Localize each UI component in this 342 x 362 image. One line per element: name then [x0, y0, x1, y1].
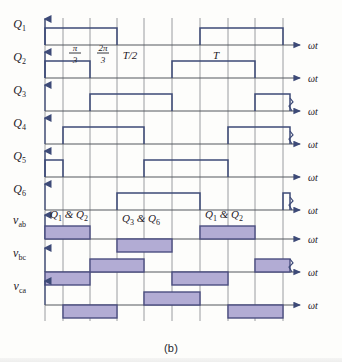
- row-label-Q5: Q5: [13, 149, 26, 165]
- time-marker-2: T/2: [123, 49, 138, 61]
- waveform-figure: ωtQ1ωtQ2ωtQ3ωtQ4ωtQ5ωtQ6ωtvabωtvbcωtvca …: [0, 0, 342, 362]
- row-label-vca: vca: [14, 279, 27, 295]
- block-vab-1: [117, 239, 172, 252]
- block-vbc-1: [90, 259, 144, 272]
- axis-label-Q2: ωt: [308, 73, 318, 84]
- figure-caption: (b): [0, 342, 342, 354]
- pulse-Q6-0: [117, 193, 200, 210]
- pulse-Q1-1: [200, 28, 283, 45]
- time-marker-label-3: T: [213, 49, 220, 61]
- pulse-Q2-0: [45, 61, 90, 78]
- block-vbc-3: [255, 259, 290, 272]
- ann-q3q6: Q3 & Q6: [122, 212, 160, 227]
- row-label-Q3: Q3: [13, 83, 26, 99]
- axis-label-vbc: ωt: [308, 267, 318, 278]
- row-label-vab: vab: [13, 213, 26, 229]
- row-Q4: ωtQ4: [13, 116, 318, 150]
- time-marker-label-2: T/2: [123, 49, 138, 61]
- row-label-Q6: Q6: [13, 182, 26, 198]
- row-label-Q4: Q4: [13, 116, 26, 132]
- page-edge-band: [0, 358, 342, 362]
- row-Q2: ωtQ2: [13, 50, 318, 84]
- row-Q6: ωtQ6: [13, 182, 318, 216]
- block-vca-0: [63, 305, 117, 318]
- axis-label-Q1: ωt: [308, 40, 318, 51]
- axis-label-vca: ωt: [308, 300, 318, 311]
- axis-label-Q5: ωt: [308, 172, 318, 183]
- pulse-Q2-1: [172, 61, 255, 78]
- pulse-Q3-0: [90, 94, 172, 111]
- row-Q5: ωtQ5: [13, 149, 318, 183]
- row-label-Q1: Q1: [13, 17, 26, 33]
- time-marker-numerator-1: 2π: [98, 43, 108, 53]
- axis-label-Q3: ωt: [308, 106, 318, 117]
- pulse-Q4-0: [63, 127, 144, 144]
- ann-q1q2-right: Q1 & Q2: [205, 208, 243, 223]
- waveform-rows: ωtQ1ωtQ2ωtQ3ωtQ4ωtQ5ωtQ6ωtvabωtvbcωtvca: [13, 17, 318, 318]
- annotations: Q1 & Q2Q3 & Q6Q1 & Q2: [50, 208, 243, 227]
- time-marker-numerator-0: π: [73, 43, 78, 53]
- row-Q3: ωtQ3: [13, 83, 318, 117]
- pulse-Q3-1: [255, 94, 290, 111]
- axis-label-Q4: ωt: [308, 139, 318, 150]
- time-marker-denominator-0: 3: [72, 55, 78, 65]
- time-marker-denominator-1: 3: [100, 55, 106, 65]
- time-marker-1: 2π3: [97, 43, 109, 65]
- pulse-Q6-1: [283, 193, 290, 210]
- block-vab-0: [45, 226, 90, 239]
- pulse-Q5-1: [144, 160, 228, 177]
- block-vca-2: [228, 305, 283, 318]
- row-label-Q2: Q2: [13, 50, 26, 66]
- axis-label-vab: ωt: [308, 234, 318, 245]
- row-Q1: ωtQ1: [13, 17, 318, 51]
- row-label-vbc: vbc: [13, 246, 26, 262]
- pulse-Q4-1: [228, 127, 290, 144]
- axis-label-Q6: ωt: [308, 205, 318, 216]
- block-vbc-0: [45, 272, 90, 285]
- timing-diagram-svg: ωtQ1ωtQ2ωtQ3ωtQ4ωtQ5ωtQ6ωtvabωtvbcωtvca …: [0, 0, 342, 362]
- pulse-Q5-0: [45, 160, 63, 177]
- ann-q1q2-left: Q1 & Q2: [50, 208, 88, 223]
- block-vbc-2: [172, 272, 228, 285]
- block-vca-1: [144, 292, 200, 305]
- block-vab-2: [200, 226, 255, 239]
- time-marker-3: T: [213, 49, 220, 61]
